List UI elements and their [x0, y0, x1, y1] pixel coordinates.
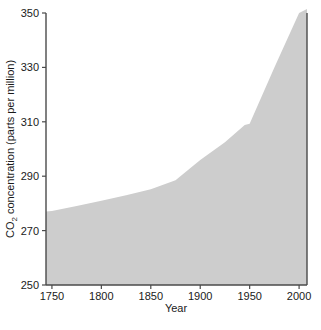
x-axis-title: Year: [165, 302, 188, 314]
figure-root: 250270290310330350 175018001850190019502…: [0, 0, 321, 330]
y-tick-label-270: 270: [21, 225, 39, 237]
x-tick-label-1950: 1950: [237, 290, 261, 302]
y-tick-label-250: 250: [21, 279, 39, 291]
y-axis-title-prefix: CO: [4, 221, 16, 238]
x-tick-label-1800: 1800: [89, 290, 113, 302]
x-tick-label-2000: 2000: [287, 290, 311, 302]
y-tick-label-310: 310: [21, 116, 39, 128]
y-tick-label-350: 350: [21, 7, 39, 19]
y-tick-label-330: 330: [21, 61, 39, 73]
x-tick-label-1750: 1750: [40, 290, 64, 302]
co2-concentration-area-chart: 250270290310330350 175018001850190019502…: [0, 0, 321, 330]
x-tick-label-1850: 1850: [139, 290, 163, 302]
y-tick-label-290: 290: [21, 170, 39, 182]
y-axis-title-suffix: concentration (parts per million): [4, 60, 16, 217]
x-tick-label-1900: 1900: [188, 290, 212, 302]
